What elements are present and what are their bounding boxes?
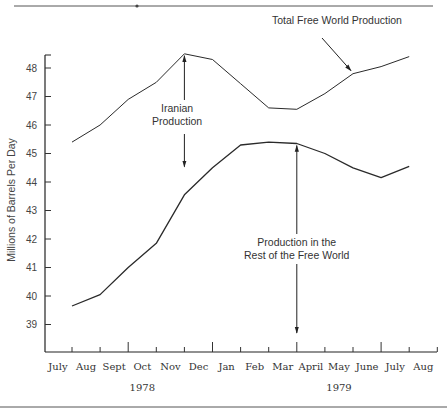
x-tick-label: Jan [217, 361, 235, 372]
year-label: 1979 [326, 382, 351, 393]
x-tick-label: Oct [133, 361, 151, 372]
x-tick-label: Nov [160, 361, 181, 372]
annotation-rest-of-free-world: Production in the Rest of the Free World [244, 236, 349, 262]
x-tick-label: April [297, 361, 323, 372]
y-axis-title: Millions of Barrels Per Day [5, 137, 17, 261]
y-tick-label: 47 [26, 91, 38, 102]
year-label: 1978 [130, 382, 155, 393]
annotation-rest-line2: Rest of the Free World [244, 249, 349, 262]
y-tick-label: 39 [26, 319, 38, 330]
y-tick-label: 45 [26, 148, 38, 159]
annotation-iranian-line2: Production [152, 115, 202, 128]
x-tick-label: Aug [75, 361, 97, 372]
y-tick-label: 48 [26, 63, 38, 74]
annotation-rest-line1: Production in the [244, 236, 349, 249]
y-tick-label: 44 [26, 177, 38, 188]
x-tick-label: Aug [412, 361, 434, 372]
x-tick-label: July [47, 361, 68, 372]
y-tick-label: 40 [26, 291, 38, 302]
arrow-total-free-world [322, 38, 351, 71]
x-tick-label: May [328, 361, 350, 372]
annotation-iranian-line1: Iranian [152, 102, 202, 115]
y-tick-label: 46 [26, 120, 38, 131]
x-tick-label: Sept [103, 361, 126, 372]
x-tick-label: July [385, 361, 406, 372]
line-chart: 39404142434445464748Millions of Barrels … [0, 0, 447, 410]
x-tick-label: Dec [189, 361, 209, 372]
annotation-total-free-world: Total Free World Production [272, 14, 402, 27]
y-tick-label: 42 [26, 234, 38, 245]
annotation-iranian-production: Iranian Production [152, 102, 202, 128]
series-rest-of-free-world [72, 142, 409, 306]
x-tick-label: June [355, 361, 379, 372]
y-tick-label: 43 [26, 205, 38, 216]
x-tick-label: Feb [245, 361, 264, 372]
rule-dot [135, 4, 138, 7]
x-tick-label: Mar [272, 361, 293, 372]
y-tick-label: 41 [26, 262, 38, 273]
series-total-free-world [72, 54, 409, 142]
